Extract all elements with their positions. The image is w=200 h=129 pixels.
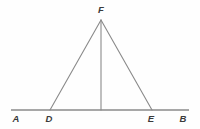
figure-canvas: F A D E B bbox=[0, 0, 200, 129]
label-point-B: B bbox=[180, 113, 187, 124]
label-point-F: F bbox=[98, 4, 104, 15]
label-point-E: E bbox=[148, 113, 155, 124]
label-point-D: D bbox=[46, 113, 53, 124]
geometry-figure: F A D E B bbox=[0, 0, 200, 129]
label-point-A: A bbox=[12, 113, 20, 124]
